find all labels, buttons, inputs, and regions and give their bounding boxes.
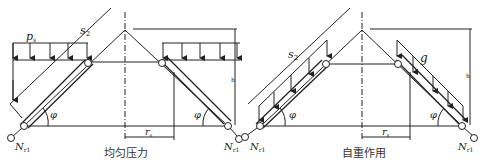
diagram-canvas: ps s2 φ φ rs h Nr1 Nr1 均匀压力 (0, 0, 484, 166)
angle-arc-right (203, 108, 209, 126)
hinge-top-left (85, 60, 92, 67)
cone-left-edge (25, 30, 125, 125)
panel-uniform-pressure-labels: ps s2 φ φ rs h Nr1 Nr1 均匀压力 (14, 24, 239, 160)
support-left (242, 134, 249, 141)
left-member-b (28, 64, 93, 128)
height-label: h (466, 72, 470, 79)
load-label-p: ps (26, 30, 36, 43)
load-arrows-right (163, 43, 237, 58)
height-label: h (231, 76, 235, 83)
angle-label-left: φ (50, 109, 57, 120)
reaction-left-label: Nr1 (14, 141, 30, 153)
load-arrows-left (13, 43, 87, 100)
slant-label: s2 (288, 48, 298, 62)
angle-label-left: φ (289, 109, 296, 120)
right-member-a (160, 60, 224, 124)
support-right (471, 135, 478, 142)
slant-dim-line (10, 8, 111, 104)
angle-label-right: φ (194, 109, 201, 120)
slant-label: s2 (80, 24, 90, 38)
load-arrows-right (397, 40, 463, 120)
angle-arc-right (438, 108, 444, 126)
cone-right-edge (125, 30, 228, 126)
radius-label: rs (382, 126, 390, 138)
angle-label-right: φ (430, 109, 437, 120)
panel-self-weight (242, 8, 478, 142)
panel-uniform-pressure (8, 8, 243, 143)
radius-label: rs (145, 126, 153, 138)
hinge-base-left (257, 123, 264, 130)
reaction-right-label: Nr1 (223, 141, 239, 153)
reaction-left-label: Nr1 (249, 141, 265, 153)
slant-dim-ext (10, 104, 22, 118)
hinge-top-right (395, 61, 402, 68)
hinge-top-right (159, 60, 166, 67)
reaction-right-label: Nr1 (457, 141, 473, 153)
caption-self-weight: 自重作用 (342, 146, 386, 160)
load-label-g: g (420, 51, 428, 65)
support-left (8, 135, 15, 142)
caption-uniform-pressure: 均匀压力 (104, 147, 148, 160)
hinge-top-left (323, 61, 330, 68)
